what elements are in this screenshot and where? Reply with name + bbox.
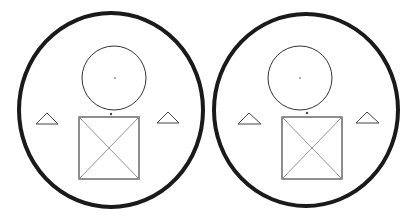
neck-dot — [306, 112, 308, 114]
center-dot — [299, 77, 301, 79]
right-triangle-icon — [356, 112, 379, 123]
neck-dot — [110, 113, 112, 115]
diagram-canvas — [0, 0, 417, 222]
left-triangle-icon — [238, 113, 261, 124]
right-triangle-icon — [157, 112, 179, 123]
left-triangle-icon — [36, 113, 58, 124]
center-dot — [114, 77, 116, 79]
outer-ring — [214, 14, 398, 206]
right-figure — [214, 14, 398, 206]
head-circle — [82, 46, 146, 110]
left-figure — [19, 13, 203, 207]
